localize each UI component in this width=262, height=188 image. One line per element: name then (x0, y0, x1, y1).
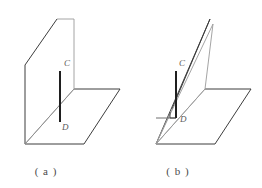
geometry-diagram: C D ( a ) (0, 0, 262, 188)
figure-board: C D ( a ) (0, 0, 262, 188)
figure-b-caption: ( b ) (166, 165, 189, 178)
figure-a-point-label-c: C (64, 58, 71, 68)
figure-a-caption: ( a ) (35, 165, 58, 178)
figure-b-slanted-plane-inner-right-edge (205, 24, 213, 89)
figure-a-point-label-d: D (61, 122, 69, 132)
figure-b-point-label-c: C (179, 58, 186, 68)
figure-b-point-label-d: D (179, 114, 187, 124)
figure-a: C D ( a ) (25, 19, 120, 178)
figure-b: C D ( b ) (156, 19, 251, 178)
